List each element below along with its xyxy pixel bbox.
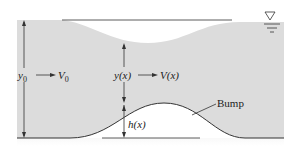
bump-height-label: h(x) <box>128 118 146 131</box>
local-velocity-label: V(x) <box>160 69 179 82</box>
bump-label: Bump <box>217 97 244 109</box>
local-depth-label: y(x) <box>113 69 131 82</box>
flow-over-bump-diagram: y0 V0 y(x) V(x) h(x) Bump <box>0 0 296 152</box>
